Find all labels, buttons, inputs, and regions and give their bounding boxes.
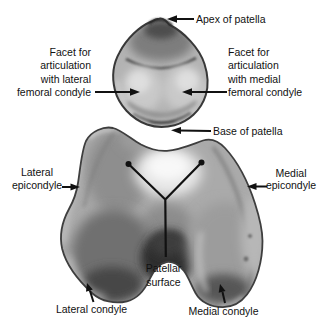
label-apex-of-patella: Apex of patella [196, 13, 265, 27]
label-facet-lateral-line: with lateral [0, 73, 91, 87]
bone-pit-spot [244, 257, 249, 262]
medial-facet-hotspot [176, 70, 198, 92]
label-base-of-patella: Base of patella [213, 125, 282, 139]
patella-shape [108, 13, 214, 133]
label-medial-epicondyle-line: Medial [265, 167, 317, 180]
label-medial-epicondyle: Medial epicondyle [265, 167, 317, 192]
label-patellar-surface-line: Patellar [136, 262, 191, 276]
label-facet-medial-line: articulation [228, 59, 302, 73]
label-medial-condyle: Medial condyle [183, 305, 264, 319]
patellar-surface-hotspot [148, 154, 188, 180]
label-lateral-epicondyle-line: Lateral [11, 166, 63, 179]
label-facet-medial-line: with medial [228, 73, 302, 87]
label-facet-lateral-line: femoral condyle [0, 86, 91, 100]
label-patellar-surface-line: surface [136, 276, 191, 290]
label-lateral-condyle: Lateral condyle [51, 303, 132, 317]
base-arrow [171, 127, 211, 134]
label-facet-medial: Facet for articulation with medial femor… [228, 46, 302, 100]
label-lateral-epicondyle: Lateral epicondyle [11, 166, 63, 191]
label-patellar-surface: Patellar surface [136, 262, 191, 289]
patella-shading [108, 13, 214, 133]
label-facet-lateral-line: Facet for [0, 46, 91, 60]
label-facet-lateral: Facet for articulation with lateral femo… [0, 46, 91, 100]
bone-pit-spot [248, 234, 252, 238]
label-medial-epicondyle-line: epicondyle [265, 179, 317, 192]
label-facet-medial-line: Facet for [228, 46, 302, 60]
label-facet-lateral-line: articulation [0, 59, 91, 73]
label-lateral-epicondyle-line: epicondyle [11, 179, 63, 192]
label-facet-medial-line: femoral condyle [228, 86, 302, 100]
anatomy-figure: Apex of patella Facet for articulation w… [0, 0, 329, 328]
apex-arrow [167, 15, 194, 22]
intercondylar-notch-upper-shadow [150, 230, 186, 256]
